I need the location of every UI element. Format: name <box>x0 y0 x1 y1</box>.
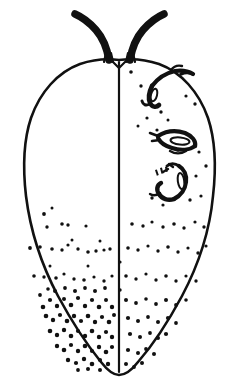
stipple-dot <box>38 245 42 249</box>
stipple-dot <box>76 329 80 333</box>
stipple-dot <box>196 251 199 254</box>
stipple-dot <box>156 336 160 340</box>
stipple-dot <box>62 272 65 275</box>
stipple-dot <box>72 314 76 318</box>
stipple-dot <box>150 196 153 199</box>
stipple-dot <box>141 224 144 227</box>
stipple-dot <box>97 345 101 349</box>
stipple-dot <box>84 224 87 227</box>
stipple-dot <box>164 274 168 278</box>
stipple-dot <box>148 331 152 335</box>
stipple-dot <box>164 298 168 302</box>
stipple-dot <box>97 305 102 310</box>
stipple-dot <box>92 275 95 278</box>
stipple-dot <box>166 245 170 249</box>
stipple-dot <box>199 194 202 197</box>
stipple-dot <box>41 305 46 310</box>
stipple-dot <box>138 335 142 339</box>
stipple-dot <box>55 333 59 337</box>
stipple-dot <box>103 286 107 290</box>
stipple-dot <box>104 350 109 355</box>
stipple-dot <box>145 116 148 119</box>
stipple-dot <box>98 368 102 372</box>
stipple-dot <box>76 247 79 250</box>
stipple-dot <box>134 301 138 305</box>
stipple-dot <box>128 332 132 336</box>
stipple-dot <box>166 316 170 320</box>
stipple-dot <box>76 349 80 353</box>
stipple-dot <box>90 298 94 302</box>
stipple-dot <box>45 225 48 228</box>
stipple-dot <box>118 288 121 291</box>
stipple-dot <box>62 328 66 332</box>
stipple-dot <box>83 334 87 338</box>
stipple-dot <box>100 315 104 319</box>
figure-container: none <box>0 0 239 390</box>
stipple-dot <box>184 94 187 97</box>
stipple-dot <box>48 329 53 334</box>
stipple-dot <box>51 318 55 322</box>
stipple-dot <box>129 70 133 74</box>
stipple-dot <box>83 344 88 349</box>
stipple-dot <box>28 246 32 250</box>
stipple-dot <box>144 272 147 275</box>
stipple-dot <box>167 119 170 122</box>
stipple-dot <box>44 314 49 319</box>
stipple-dot <box>72 277 75 280</box>
stipple-dot <box>74 361 78 365</box>
stipple-dot <box>155 128 158 131</box>
stipple-dot <box>194 174 197 177</box>
stipple-dot <box>104 330 108 334</box>
stipple-dot <box>194 279 197 282</box>
stipple-dot <box>55 344 59 348</box>
stipple-dot <box>124 298 128 302</box>
stipple-dot <box>73 289 77 293</box>
stipple-dot <box>134 277 137 280</box>
stipple-dot <box>76 368 80 372</box>
stipple-dot <box>82 357 86 361</box>
stipple-dot <box>204 164 207 167</box>
stipple-dot <box>188 198 191 201</box>
stipple-dot <box>71 239 74 242</box>
stipple-dot <box>90 349 94 353</box>
stipple-dot <box>38 293 42 297</box>
stipple-dot <box>186 246 189 249</box>
stipple-dot <box>204 244 207 247</box>
stipple-dot <box>62 348 67 353</box>
stipple-dot <box>69 334 74 339</box>
stipple-dot <box>86 367 90 371</box>
stipple-dot <box>174 279 177 282</box>
stipple-dot <box>164 332 168 336</box>
stipple-dot <box>58 313 62 317</box>
stipple-dot <box>112 313 116 317</box>
stipple-dot <box>184 298 188 302</box>
stipple-dot <box>93 289 97 293</box>
stipple-dot <box>126 246 130 250</box>
stipple-dot <box>90 362 95 367</box>
stipple-dot <box>32 274 36 278</box>
stipple-dot <box>93 320 97 324</box>
stipple-dot <box>108 247 111 250</box>
stipple-dot <box>136 351 140 355</box>
stipple-dot <box>79 319 83 323</box>
stipple-dot <box>124 362 128 366</box>
stipple-dot <box>139 84 142 87</box>
stipple-dot <box>49 265 52 268</box>
stipple-dot <box>193 102 196 105</box>
stipple-dot <box>172 222 176 226</box>
stipple-dot <box>174 303 178 307</box>
stipple-dot <box>156 320 160 324</box>
stipple-dot <box>97 335 101 339</box>
stipple-dot <box>102 248 105 251</box>
stipple-dot <box>136 319 140 323</box>
stipple-dot <box>161 225 164 228</box>
stipple-dot <box>53 289 57 293</box>
stipple-dot <box>51 207 54 210</box>
stipple-dot <box>110 305 114 309</box>
stipple-dot <box>126 316 130 320</box>
stipple-dot <box>161 203 164 206</box>
stipple-dot <box>62 297 66 301</box>
stipple-dot <box>137 125 140 128</box>
stipple-dot <box>130 222 134 226</box>
stipple-dot <box>202 225 205 228</box>
